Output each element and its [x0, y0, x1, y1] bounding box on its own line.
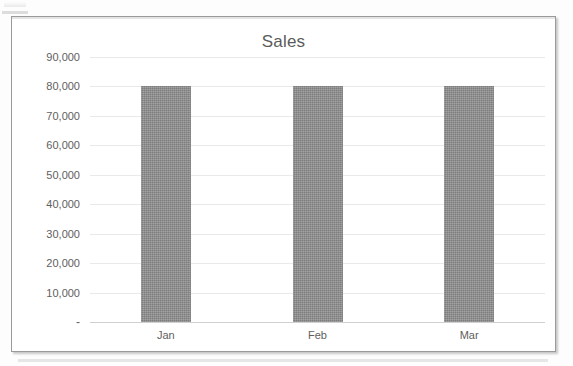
y-axis-labels: -10,00020,00030,00040,00050,00060,00070,… [12, 57, 86, 322]
bar [293, 86, 343, 322]
screenshot-canvas: Sales -10,00020,00030,00040,00050,00060,… [0, 0, 573, 366]
y-axis-tick-label: 70,000 [46, 110, 80, 122]
bar-series [90, 57, 545, 322]
chart-container[interactable]: Sales -10,00020,00030,00040,00050,00060,… [11, 16, 556, 352]
y-axis-tick-label: 10,000 [46, 287, 80, 299]
y-axis-tick-label: - [76, 315, 80, 329]
y-axis-tick-label: 40,000 [46, 198, 80, 210]
y-axis-tick-label: 50,000 [46, 169, 80, 181]
x-axis-labels: JanFebMar [90, 329, 545, 351]
scan-artifact-line [2, 11, 28, 14]
x-axis-tick-label: Jan [157, 329, 175, 341]
y-axis-tick-label: 30,000 [46, 228, 80, 240]
plot-area [90, 57, 545, 322]
chart-title: Sales [12, 32, 555, 52]
bar [444, 86, 494, 322]
x-axis-tick-label: Feb [308, 329, 327, 341]
bar [141, 86, 191, 322]
frame-top-edge [12, 17, 555, 19]
x-axis-tick-label: Mar [460, 329, 479, 341]
y-axis-tick-label: 20,000 [46, 257, 80, 269]
y-axis-tick-label: 60,000 [46, 139, 80, 151]
y-axis-tick-label: 90,000 [46, 51, 80, 63]
axis-baseline [90, 322, 545, 323]
y-axis-tick-label: 80,000 [46, 80, 80, 92]
page-edge-smudge [18, 359, 548, 362]
